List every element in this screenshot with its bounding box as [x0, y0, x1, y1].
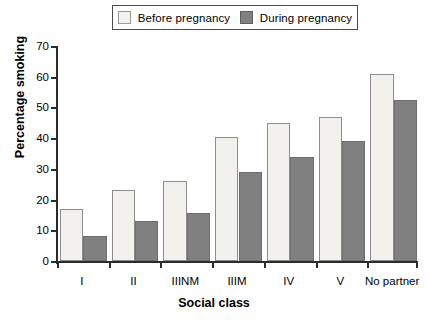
- y-tick-mark: [51, 230, 57, 232]
- y-tick-label: 70: [36, 40, 49, 52]
- legend-label-during-pregnancy: During pregnancy: [260, 12, 352, 24]
- bar-chart-figure: Before pregnancy During pregnancy 010203…: [0, 0, 428, 324]
- y-tick-mark: [51, 138, 57, 140]
- bar-iiinm-before: [163, 181, 186, 261]
- y-tick-label: 40: [36, 132, 49, 144]
- y-tick-label: 20: [36, 194, 49, 206]
- x-category-label-iiim: IIIM: [227, 275, 246, 287]
- bar-iiinm-during: [187, 213, 210, 261]
- y-axis-title: Percentage smoking: [13, 7, 27, 187]
- bar-iiim-during: [239, 172, 262, 261]
- bar-iv-before: [267, 123, 290, 261]
- bar-v-before: [319, 117, 342, 261]
- y-tick-mark: [51, 107, 57, 109]
- x-category-label-iv: IV: [283, 275, 294, 287]
- y-tick-mark: [51, 200, 57, 202]
- bar-i-during: [83, 236, 106, 261]
- x-category-label-i: I: [80, 275, 83, 287]
- bar-no-partner-before: [370, 74, 393, 261]
- y-tick-label: 50: [36, 101, 49, 113]
- y-tick-mark: [51, 169, 57, 171]
- y-tick-label: 10: [36, 224, 49, 236]
- legend-entry-before-pregnancy: Before pregnancy: [118, 11, 230, 24]
- legend-entry-during-pregnancy: During pregnancy: [240, 11, 352, 24]
- x-category-label-no-partner: No partner: [365, 275, 419, 287]
- x-axis-title: Social class: [0, 296, 428, 310]
- y-tick-mark: [51, 77, 57, 79]
- plot-area: 010203040506070: [56, 46, 418, 263]
- bar-iiim-before: [215, 137, 238, 261]
- y-tick-label: 60: [36, 71, 49, 83]
- legend-label-before-pregnancy: Before pregnancy: [138, 12, 230, 24]
- bars-container: [58, 46, 418, 261]
- bar-i-before: [60, 209, 83, 261]
- x-category-label-ii: II: [130, 275, 136, 287]
- x-category-label-v: V: [337, 275, 345, 287]
- x-category-label-iiinm: IIINM: [172, 275, 199, 287]
- bar-ii-during: [135, 221, 158, 261]
- y-tick-mark: [51, 46, 57, 48]
- x-axis-category-labels: IIIIIINMIIIMIVVNo partner: [56, 265, 418, 285]
- bar-iv-during: [290, 157, 313, 261]
- bar-ii-before: [112, 190, 135, 261]
- bar-v-during: [342, 141, 365, 261]
- bar-no-partner-during: [394, 100, 417, 261]
- legend-swatch-dark-icon: [240, 11, 253, 24]
- legend-swatch-light-icon: [118, 11, 131, 24]
- chart-legend: Before pregnancy During pregnancy: [112, 5, 358, 30]
- y-tick-label: 30: [36, 163, 49, 175]
- y-tick-label: 0: [43, 255, 49, 267]
